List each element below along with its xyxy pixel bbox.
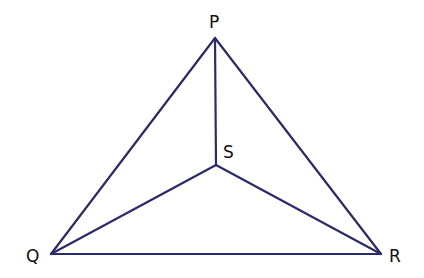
diagram-canvas: P S Q R <box>0 0 424 278</box>
segment-ps <box>215 38 216 165</box>
label-s: S <box>223 142 234 162</box>
label-q: Q <box>26 246 39 266</box>
label-r: R <box>389 246 401 266</box>
segment-qs <box>51 165 216 254</box>
label-p: P <box>209 12 219 32</box>
segment-pq <box>51 38 215 254</box>
segment-rs <box>216 165 381 254</box>
segment-rp <box>215 38 381 254</box>
triangle-diagram: P S Q R <box>0 0 424 278</box>
